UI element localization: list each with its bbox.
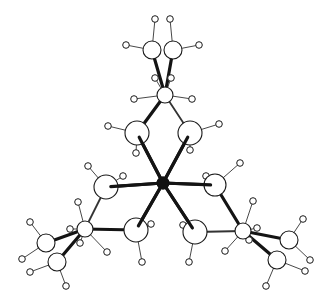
hydrogen-atom bbox=[77, 240, 84, 247]
hydrogen-atom bbox=[302, 268, 309, 275]
hydrogen-atom bbox=[105, 123, 112, 130]
hydrogen-atom bbox=[216, 121, 223, 128]
hydrogen-atom bbox=[104, 249, 111, 256]
hydrogen-atom bbox=[168, 75, 175, 82]
hydrogen-atom bbox=[133, 150, 140, 157]
atom-LA bbox=[77, 221, 93, 237]
hydrogen-atom bbox=[27, 219, 34, 226]
hydrogen-atom bbox=[152, 16, 159, 23]
atom-LM1 bbox=[37, 234, 55, 252]
hydrogen-atom bbox=[152, 75, 159, 82]
hydrogen-atom bbox=[186, 259, 193, 266]
hydrogen-bonds-layer bbox=[22, 19, 310, 286]
molecule-diagram bbox=[0, 0, 327, 305]
hydrogen-atom bbox=[237, 160, 244, 167]
hydrogen-atom bbox=[263, 283, 270, 290]
atom-A2 bbox=[178, 121, 202, 145]
hydrogen-atom bbox=[254, 225, 261, 232]
hydrogen-atom bbox=[85, 163, 92, 170]
metal-bond-front-A1 bbox=[139, 137, 163, 183]
atom-RM1 bbox=[280, 231, 298, 249]
hydrogen-atom bbox=[196, 42, 203, 49]
hydrogen-atom bbox=[222, 248, 229, 255]
hydrogen-atoms-layer bbox=[19, 16, 314, 290]
atom-TA bbox=[157, 87, 173, 103]
atom-LM2 bbox=[48, 253, 66, 271]
hydrogen-atom bbox=[139, 259, 146, 266]
atom-B2 bbox=[124, 218, 148, 242]
metal-bond-front-B2 bbox=[138, 183, 163, 226]
hydrogen-atom bbox=[307, 257, 314, 264]
hydrogen-atom bbox=[120, 173, 127, 180]
metal-atom-center bbox=[157, 177, 169, 189]
hydrogen-atom bbox=[67, 226, 74, 233]
atom-TM2 bbox=[164, 41, 182, 59]
hydrogen-atom bbox=[27, 269, 34, 276]
hydrogen-atom bbox=[75, 199, 82, 206]
metal-bond-front-C1 bbox=[163, 183, 211, 185]
hydrogen-atom bbox=[148, 221, 155, 228]
hydrogen-atom bbox=[187, 147, 194, 154]
hydrogen-atom bbox=[250, 198, 257, 205]
atom-TM1 bbox=[143, 41, 161, 59]
atom-RA bbox=[235, 223, 251, 239]
hydrogen-atom bbox=[189, 96, 196, 103]
hydrogen-atom bbox=[167, 16, 174, 23]
hydrogen-atom bbox=[131, 96, 138, 103]
metal-bond-front-B1 bbox=[111, 183, 163, 187]
hydrogen-atom bbox=[19, 256, 26, 263]
hydrogen-atom bbox=[63, 283, 70, 290]
hydrogen-atom bbox=[123, 42, 130, 49]
metal-bond-front-C2 bbox=[163, 183, 192, 228]
hydrogen-atom bbox=[300, 216, 307, 223]
metal-bond-front-A2 bbox=[163, 137, 188, 183]
atom-RM2 bbox=[268, 251, 286, 269]
atom-A1 bbox=[125, 121, 149, 145]
atom-C2 bbox=[183, 220, 207, 244]
